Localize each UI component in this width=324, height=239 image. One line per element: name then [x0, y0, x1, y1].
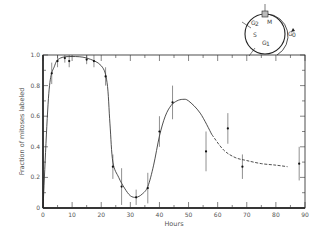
data-point: [56, 60, 58, 62]
y-tick-label: 0.8: [30, 82, 40, 89]
data-point: [86, 58, 88, 60]
data-point: [135, 196, 137, 198]
data-point: [158, 130, 160, 132]
data-point: [147, 187, 149, 189]
y-tick-label: 0.2: [30, 173, 40, 180]
y-tick-label: 0.6: [30, 112, 40, 119]
x-axis-title: Hours: [164, 220, 184, 228]
label-g2-sub: 2: [255, 20, 259, 27]
x-tick-label: 70: [243, 211, 251, 218]
data-point: [171, 101, 173, 103]
data-point: [93, 60, 95, 62]
data-point: [51, 72, 53, 74]
data-point: [241, 166, 243, 168]
x-tick-label: 0: [41, 211, 45, 218]
label-g1-sub: 1: [266, 40, 270, 47]
plot-frame: [43, 55, 305, 208]
label-m: M: [267, 18, 272, 25]
data-point: [205, 150, 207, 152]
data-point: [121, 185, 123, 187]
mitosis-box-icon: [262, 11, 268, 17]
data-point: [112, 166, 114, 168]
y-tick-label: 0.4: [30, 143, 40, 150]
x-tick-label: 60: [214, 211, 222, 218]
y-tick-label: 0: [36, 204, 40, 211]
x-tick-label: 10: [68, 211, 76, 218]
label-g0-sub: 0: [292, 31, 296, 38]
x-tick-label: 40: [156, 211, 164, 218]
data-point: [298, 163, 300, 165]
data-point: [227, 127, 229, 129]
x-tick-label: 90: [301, 211, 309, 218]
chart: 010203040506070809000.20.40.60.81.0Hours…: [0, 0, 324, 239]
y-axis-title: Fraction of mitoses labeled: [18, 88, 26, 176]
fitted-curve-dashed: [212, 135, 288, 167]
fitted-curve-solid: [43, 57, 212, 208]
label-s: S: [253, 31, 257, 38]
y-tick-label: 1.0: [30, 51, 40, 58]
x-tick-label: 80: [272, 211, 280, 218]
data-point: [68, 60, 70, 62]
x-tick-label: 30: [127, 211, 135, 218]
data-point: [64, 57, 66, 59]
data-point: [104, 75, 106, 77]
x-tick-label: 20: [97, 211, 105, 218]
x-tick-label: 50: [185, 211, 193, 218]
